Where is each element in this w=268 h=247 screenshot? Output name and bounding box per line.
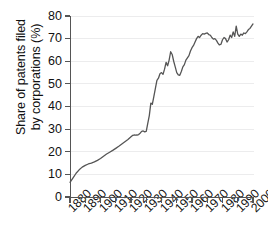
chart-container: Share of patents filed by corporations (…	[0, 0, 268, 247]
y-axis-tick-label: 10	[40, 168, 62, 181]
y-axis-tick-label: 20	[40, 146, 62, 159]
y-axis-tick-label: 40	[40, 100, 62, 113]
y-axis-tick-label: 60	[40, 55, 62, 68]
series-line-corporate-share	[70, 24, 253, 182]
y-axis-tick-label: 30	[40, 123, 62, 136]
y-axis-tick-label: 70	[40, 32, 62, 45]
line-series-svg	[70, 16, 253, 197]
y-axis-tick-label: 0	[40, 191, 62, 204]
y-axis-tick-label: 50	[40, 78, 62, 91]
y-axis-tick-label: 80	[40, 10, 62, 23]
y-axis-title-line1: Share of patents filed	[14, 0, 29, 157]
plot-area	[70, 16, 253, 197]
